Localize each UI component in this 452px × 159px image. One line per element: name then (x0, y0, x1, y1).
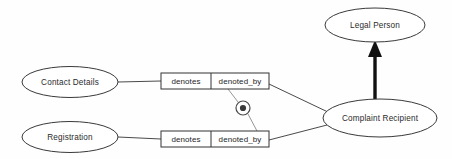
entity-contact-details[interactable]: Contact Details (22, 67, 118, 98)
entity-legal-person[interactable]: Legal Person (325, 8, 425, 42)
role-registration-denoted-by-label: denoted_by (219, 135, 262, 144)
constraint-line-to-registration-fact (248, 114, 257, 131)
entity-registration-label: Registration (47, 133, 93, 142)
subtype-arrow (368, 40, 382, 99)
role-contact-denotes-label: denotes (171, 77, 200, 86)
diagram-svg: Contact Details Registration Legal Perso… (0, 0, 452, 159)
orm-diagram-canvas: Contact Details Registration Legal Perso… (0, 0, 452, 159)
role-contact-denoted-by-label: denoted_by (219, 77, 262, 86)
entity-registration[interactable]: Registration (22, 122, 118, 153)
entity-complaint-recipient-label: Complaint Recipient (342, 114, 419, 123)
role-registration-denotes-label: denotes (171, 135, 200, 144)
constraint-dot-icon (240, 105, 246, 111)
entity-complaint-recipient[interactable]: Complaint Recipient (323, 99, 437, 137)
fact-type-registration[interactable]: denotes denoted_by (161, 131, 269, 147)
constraint-line-to-contact-fact (228, 89, 238, 102)
exclusion-constraint-marker[interactable] (236, 101, 250, 115)
connector-registration-fact-to-complaint-recipient (269, 125, 327, 140)
connector-registration-to-fact (118, 137, 161, 139)
fact-type-contact-details[interactable]: denotes denoted_by (161, 73, 269, 89)
connector-contact-fact-to-complaint-recipient (269, 84, 330, 113)
connector-contact-details-to-fact (118, 81, 161, 82)
entity-contact-details-label: Contact Details (41, 78, 99, 87)
entity-legal-person-label: Legal Person (350, 21, 400, 30)
subtype-arrow-head (368, 40, 382, 57)
